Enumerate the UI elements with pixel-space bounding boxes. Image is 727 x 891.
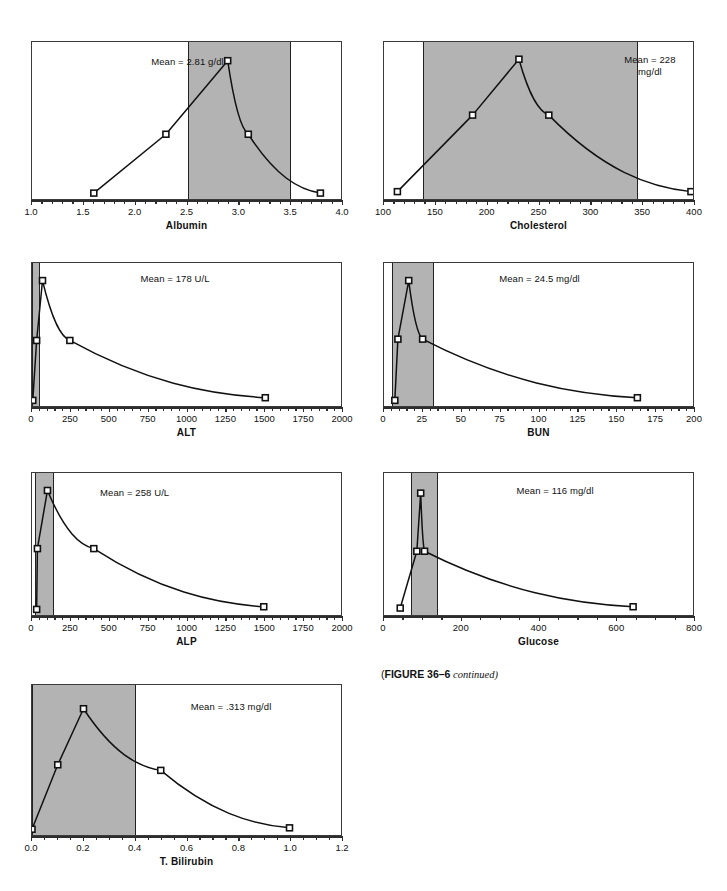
x-axis-tick-label: 600 <box>608 622 624 633</box>
x-axis-minor-tick <box>210 616 211 620</box>
x-axis-minor-tick <box>326 616 327 620</box>
x-axis-minor-tick <box>497 200 498 204</box>
x-axis-tick-label: 0.0 <box>24 842 37 853</box>
chart-panel-bilirubin: Mean = .313 mg/dl0.00.20.40.60.81.01.2T.… <box>31 684 342 876</box>
x-axis-minor-tick <box>301 200 302 204</box>
data-point-marker <box>34 606 40 612</box>
x-axis-minor-tick <box>132 616 133 620</box>
x-axis-minor-tick <box>445 407 446 411</box>
x-axis-tick <box>422 407 423 412</box>
x-axis-minor-tick <box>218 616 219 620</box>
x-axis-minor-tick <box>562 407 563 411</box>
data-point-marker <box>630 604 636 610</box>
x-axis-minor-tick <box>507 407 508 411</box>
x-axis-tick-label: 500 <box>101 413 117 424</box>
x-axis-minor-tick <box>114 200 115 204</box>
x-axis-minor-tick <box>326 407 327 411</box>
x-axis-tick-label: 500 <box>101 622 117 633</box>
x-axis-minor-tick <box>678 407 679 411</box>
x-axis-minor-tick <box>194 407 195 411</box>
x-axis-minor-tick <box>233 616 234 620</box>
x-axis-minor-tick <box>57 836 58 840</box>
data-point-marker <box>34 338 40 344</box>
x-axis-minor-tick <box>256 616 257 620</box>
x-axis-tick-label: 300 <box>582 206 598 217</box>
x-axis-tick <box>290 836 291 841</box>
x-axis-minor-tick <box>653 200 654 204</box>
x-axis-tick-label: 0.8 <box>232 842 245 853</box>
x-axis-minor-tick <box>228 200 229 204</box>
x-axis-minor-tick <box>288 407 289 411</box>
x-axis-tick-label: 2.0 <box>128 206 141 217</box>
x-axis-minor-tick <box>393 200 394 204</box>
x-axis-minor-tick <box>212 836 213 840</box>
x-axis-tick-label: 2000 <box>331 413 352 424</box>
x-axis-minor-tick <box>640 407 641 411</box>
mean-annotation-alt: Mean = 178 U/L <box>100 273 250 285</box>
x-axis-minor-tick <box>124 200 125 204</box>
x-axis-tick-label: 0 <box>380 622 385 633</box>
x-axis-minor-tick <box>546 407 547 411</box>
x-axis-minor-tick <box>624 407 625 411</box>
x-axis-minor-tick <box>47 616 48 620</box>
plot-area-albumin: Mean = 2.81 g/dl <box>31 41 342 200</box>
x-axis-tick <box>642 200 643 205</box>
x-axis-minor-tick <box>101 407 102 411</box>
x-axis-tick <box>539 200 540 205</box>
x-axis-minor-tick <box>176 200 177 204</box>
x-axis-tick <box>31 200 32 205</box>
x-axis-tick <box>238 836 239 841</box>
x-axis-minor-tick <box>430 407 431 411</box>
data-point-marker <box>546 112 552 118</box>
data-point-marker <box>470 112 476 118</box>
x-axis-minor-tick <box>140 407 141 411</box>
x-axis-tick <box>303 616 304 621</box>
data-point-marker <box>163 131 169 137</box>
x-axis-minor-tick <box>507 200 508 204</box>
x-axis-minor-tick <box>611 200 612 204</box>
mean-annotation-glucose: Mean = 116 mg/dl <box>475 485 635 497</box>
x-axis-minor-tick <box>117 407 118 411</box>
x-axis-tick <box>694 407 695 412</box>
x-axis-minor-tick <box>663 407 664 411</box>
x-axis-tick-label: 250 <box>62 413 78 424</box>
x-axis-tick-label: 175 <box>647 413 663 424</box>
x-axis-minor-tick <box>256 407 257 411</box>
data-point-marker <box>418 490 424 496</box>
x-axis-title-bilirubin: T. Bilirubin <box>31 856 342 867</box>
x-axis-tick-label: 0 <box>28 622 33 633</box>
x-axis-title-cholesterol: Cholesterol <box>383 220 694 231</box>
x-axis-minor-tick <box>684 200 685 204</box>
x-axis-tick-label: 200 <box>686 413 702 424</box>
x-axis-minor-tick <box>62 200 63 204</box>
x-axis-minor-tick <box>72 200 73 204</box>
x-axis-tick <box>487 200 488 205</box>
x-axis-minor-tick <box>675 616 676 620</box>
x-axis-minor-tick <box>155 407 156 411</box>
x-axis-minor-tick <box>319 616 320 620</box>
x-axis-tick <box>109 407 110 412</box>
x-axis-tick <box>342 836 343 841</box>
plot-area-cholesterol: Mean = 228 mg/dl <box>383 41 694 200</box>
x-axis-tick-label: 1.0 <box>24 206 37 217</box>
x-axis-tick-label: 1250 <box>215 622 236 633</box>
x-axis-minor-tick <box>303 836 304 840</box>
x-axis-minor-tick <box>280 407 281 411</box>
x-axis-tick <box>135 836 136 841</box>
data-point-marker <box>392 397 398 403</box>
x-axis-minor-tick <box>41 200 42 204</box>
data-point-marker <box>634 395 640 401</box>
x-axis-minor-tick <box>476 200 477 204</box>
x-axis-minor-tick <box>93 200 94 204</box>
x-axis-tick <box>148 407 149 412</box>
mean-annotation-alp: Mean = 258 U/L <box>60 487 210 499</box>
x-axis-tick <box>500 407 501 412</box>
x-axis-minor-tick <box>241 616 242 620</box>
x-axis-minor-tick <box>210 407 211 411</box>
x-axis-minor-tick <box>597 616 598 620</box>
x-axis-minor-tick <box>636 616 637 620</box>
x-axis-tick <box>70 616 71 621</box>
x-axis-minor-tick <box>528 200 529 204</box>
x-axis-minor-tick <box>593 407 594 411</box>
x-axis-tick-label: 0.6 <box>180 842 193 853</box>
